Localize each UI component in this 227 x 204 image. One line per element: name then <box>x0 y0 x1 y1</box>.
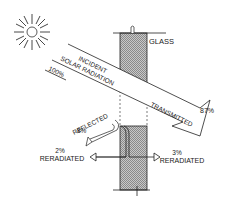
glass-label: GLASS <box>149 37 174 46</box>
reradiated-out-label: RERADIATED <box>40 155 85 162</box>
reflected-pct-label: 8% <box>77 127 87 134</box>
reradiated-in-pct-label: 3% <box>172 149 182 156</box>
incident-pct-label: 100% <box>48 65 66 79</box>
diagram-canvas: GLASS INCIDENT SOLAR RADIATION 100% TRAN… <box>0 0 227 204</box>
reradiated-out-pct-label: 2% <box>55 147 65 154</box>
transmitted-pct-label: 87% <box>200 107 214 114</box>
reradiated-in-label: RERADIATED <box>160 157 205 164</box>
sun-icon <box>14 14 50 50</box>
